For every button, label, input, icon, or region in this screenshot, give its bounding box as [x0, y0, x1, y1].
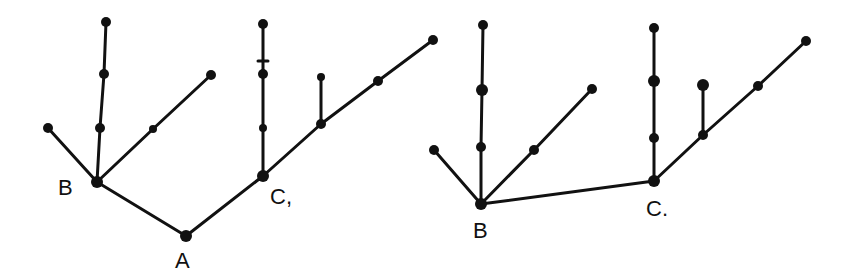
- label-c: C.: [646, 196, 668, 221]
- edge-A-C: [186, 176, 263, 236]
- edge-b_v1-b_v2: [100, 74, 104, 128]
- node-c_d3: [801, 36, 811, 46]
- edge-C-c_d1: [263, 124, 321, 176]
- node-c_v2: [258, 69, 268, 79]
- edge-b_v1-b_v2: [481, 90, 482, 147]
- node-C: [257, 170, 269, 182]
- node-b_v2: [99, 69, 109, 79]
- edge-c_d2-c_d3: [378, 40, 433, 81]
- node-C: [648, 175, 660, 187]
- edge-B-b_d1: [481, 150, 534, 204]
- label-b: B: [58, 175, 73, 200]
- node-b_v3: [101, 17, 111, 27]
- node-b_v2: [476, 84, 488, 96]
- node-c_v3: [258, 19, 268, 29]
- node-b_d2: [587, 84, 597, 94]
- node-c_v2: [648, 75, 660, 87]
- edge-b_d1-b_d2: [153, 75, 211, 129]
- node-c_d3: [428, 35, 438, 45]
- edge-B-b_leaf_left: [48, 128, 97, 182]
- left-tree: BAC,: [43, 17, 438, 273]
- node-c_v3: [649, 23, 659, 33]
- node-b_v1: [95, 123, 105, 133]
- edge-b_v2-b_v3: [104, 22, 106, 74]
- node-A: [180, 230, 192, 242]
- node-b_v1: [476, 142, 486, 152]
- node-b_leaf_left: [43, 123, 53, 133]
- tree-diagram: BAC, BC.: [0, 0, 852, 279]
- node-B: [91, 176, 103, 188]
- edge-c_d1-c_d2: [703, 86, 758, 135]
- label-a: A: [175, 248, 190, 273]
- edge-B-b_leaf_left: [434, 150, 481, 204]
- edge-A-B: [97, 182, 186, 236]
- node-B: [475, 198, 487, 210]
- edge-C-c_d1: [654, 135, 703, 181]
- edge-B-b_v1: [97, 128, 100, 182]
- node-c_v1: [649, 133, 659, 143]
- edge-b_d1-b_d2: [534, 89, 592, 150]
- node-c_d1: [316, 119, 326, 129]
- edge-B-b_d1: [97, 129, 153, 182]
- node-c_d2: [373, 76, 383, 86]
- node-b_d1: [529, 145, 539, 155]
- node-c_d2: [753, 81, 763, 91]
- node-c_d1_up: [317, 73, 325, 81]
- edge-c_d2-c_d3: [758, 41, 806, 86]
- node-b_leaf_left: [429, 145, 439, 155]
- edge-b_v2-b_v3: [482, 25, 483, 90]
- node-b_d2: [206, 70, 216, 80]
- edge-c_d1-c_d2: [321, 81, 378, 124]
- node-c_d1_up: [697, 79, 709, 91]
- node-c_v1: [259, 124, 267, 132]
- edge-B-C: [481, 181, 654, 204]
- label-b: B: [473, 218, 488, 243]
- node-b_d1: [149, 125, 157, 133]
- right-tree: BC.: [429, 20, 811, 243]
- node-b_v3: [478, 20, 488, 30]
- label-c: C,: [270, 184, 292, 209]
- node-c_d1: [698, 130, 708, 140]
